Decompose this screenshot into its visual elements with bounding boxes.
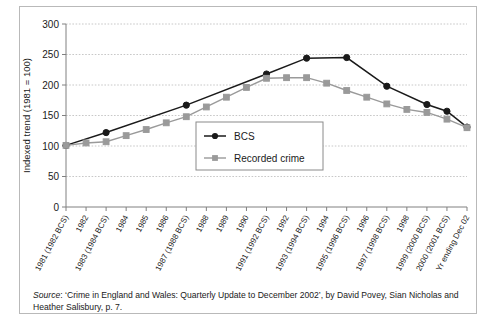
data-point-marker [284,75,290,81]
data-point-marker [444,116,450,122]
data-point-marker [304,55,310,61]
legend-label-1: Recorded crime [234,153,305,164]
x-tick-label: 1992 [275,213,292,233]
data-point-marker [83,140,89,146]
data-point-marker [123,133,129,139]
data-point-marker [143,127,149,133]
data-point-marker [384,83,390,89]
y-tick-label: 300 [42,19,59,30]
source-text: : ‘Crime in England and Wales: Quarterly… [33,290,459,312]
figure-container: 050100150200250300 1981 (1982 BCS)198219… [0,0,495,324]
data-point-marker [404,107,410,113]
legend-marker-square [212,155,218,161]
x-axis-group: 1981 (1982 BCS)19821983 (1984 BCS)198419… [33,207,471,273]
legend-label-0: BCS [234,131,255,142]
legend-marker-circle [212,133,218,139]
data-point-marker [183,114,189,120]
data-point-marker [424,101,430,107]
x-tick-label: 1996 [355,213,372,233]
y-axis-title: Indexed trend (1981 = 100) [21,58,32,173]
y-tick-label: 100 [42,141,59,152]
data-point-marker [424,110,430,116]
data-point-marker [464,125,470,131]
x-tick-label: 1989 [214,213,231,233]
x-tick-label: 1982 [74,213,91,233]
data-point-marker [444,108,450,114]
x-tick-label: 1985 [134,213,151,233]
chart-plot-area: 050100150200250300 1981 (1982 BCS)198219… [0,0,495,324]
x-tick-label: 1981 (1982 BCS) [33,213,70,272]
data-point-marker [324,80,330,86]
data-point-marker [103,139,109,145]
source-label: Source [33,290,60,300]
data-point-marker [364,94,370,100]
data-point-marker [244,85,250,91]
data-point-marker [163,120,169,126]
data-point-marker [344,54,350,60]
chart-legend: BCSRecorded crime [196,122,323,170]
data-point-marker [183,102,189,108]
data-point-marker [63,142,69,148]
data-point-marker [344,88,350,94]
y-tick-label: 50 [48,171,60,182]
y-tick-label: 250 [42,49,59,60]
data-point-marker [103,129,109,135]
x-tick-label: 1984 [114,213,131,233]
y-tick-label: 150 [42,110,59,121]
x-tick-label: 1994 [315,213,332,233]
x-tick-label: 1988 [194,213,211,233]
data-point-marker [304,75,310,81]
x-tick-label: 1986 [154,213,171,233]
y-axis-title-text: Indexed trend (1981 = 100) [21,58,32,173]
y-axis-group: 050100150200250300 [42,19,66,213]
data-point-marker [224,94,230,100]
data-point-marker [203,104,209,110]
y-tick-label: 200 [42,80,59,91]
data-point-marker [264,75,270,81]
data-point-marker [384,101,390,107]
y-tick-label: 0 [53,202,59,213]
x-tick-label: 1998 [395,213,412,233]
source-note: Source: ‘Crime in England and Wales: Qua… [33,289,473,313]
line-chart: 050100150200250300 1981 (1982 BCS)198219… [0,0,495,324]
x-tick-label: 1990 [234,213,251,233]
